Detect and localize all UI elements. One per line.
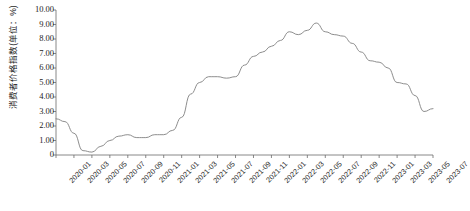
x-axis-tick-labels: 2020-012020-032020-052020-072020-092020-… [0, 0, 439, 211]
cpi-line-chart: 10.009.008.007.006.005.004.003.002.001.0… [0, 0, 439, 211]
